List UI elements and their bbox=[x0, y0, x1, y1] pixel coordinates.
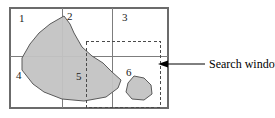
cell-label-4: 4 bbox=[16, 69, 22, 81]
search-window-diagram: 1 2 3 4 5 6 Search window bbox=[0, 0, 275, 118]
diagram-canvas: 1 2 3 4 5 6 Search window bbox=[0, 0, 275, 118]
cell-label-5: 5 bbox=[76, 70, 82, 82]
search-window-label: Search window bbox=[209, 57, 275, 71]
large-shaded-polygon bbox=[22, 16, 121, 101]
cell-label-3: 3 bbox=[122, 11, 128, 23]
cell-label-6: 6 bbox=[126, 66, 132, 78]
cell-label-2: 2 bbox=[67, 10, 73, 22]
cell-label-1: 1 bbox=[19, 12, 25, 24]
small-shaded-polygon bbox=[126, 76, 152, 100]
